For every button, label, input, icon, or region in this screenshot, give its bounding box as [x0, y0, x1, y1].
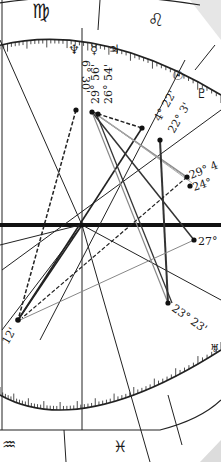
sun-point — [139, 125, 144, 130]
center-hub — [80, 223, 85, 228]
sign-leo: ♌ — [148, 9, 164, 30]
sign-virgo: ♍ — [32, 0, 50, 23]
planet-points — [15, 107, 196, 322]
jupiter-glyph: ♃ — [108, 42, 120, 57]
astrology-chart: ♍ ♌ ♒ ♓ ♆ ☿ ♃ ☉ ♇ ♅ 6° 30' 29° 56' 26° 5… — [0, 0, 221, 462]
cusp-line — [0, 40, 82, 225]
mercury-glyph: ☿ — [90, 42, 98, 57]
pluto-glyph: ♇ — [196, 86, 208, 101]
corner-shade — [190, 0, 221, 40]
sun-glyph: ☉ — [172, 68, 184, 83]
degree-ticks-bottom — [0, 342, 221, 410]
cusp-line — [82, 225, 150, 462]
jupiter-point — [95, 111, 100, 116]
corner-shade-bottom — [200, 440, 221, 462]
outer-ring-bottom — [0, 400, 221, 430]
point-27-degree: 27° — [198, 235, 218, 248]
point-12 — [15, 317, 21, 323]
cusp-line — [64, 430, 66, 462]
uranus-point — [165, 300, 170, 305]
uranus-degree: 23° 23' — [169, 302, 209, 336]
uranus-glyph: ♅ — [210, 342, 220, 355]
cusp-line — [98, 0, 100, 30]
cusp-line — [2, 110, 221, 270]
mercury-point — [89, 109, 94, 114]
cusp-line — [195, 45, 215, 70]
aspect-lines — [18, 110, 194, 320]
neptune-glyph: ♆ — [68, 42, 80, 57]
neptune-point — [73, 107, 78, 112]
mercury-degree: 29° 56' — [89, 64, 102, 104]
sign-pisces: ♓ — [113, 437, 127, 456]
point-27 — [191, 237, 196, 242]
jupiter-degree: 26° 54' — [102, 64, 115, 104]
sign-aquarius: ♒ — [2, 435, 16, 454]
cusp-line — [168, 395, 182, 445]
pluto-point — [157, 137, 162, 142]
